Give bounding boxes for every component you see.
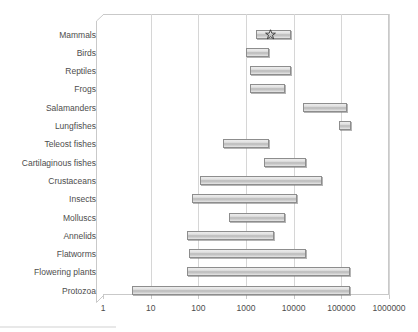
y-label-frogs: Frogs (4, 84, 96, 94)
tick-1000 (246, 295, 247, 299)
x-axis-tick-labels: 1101001000100001000001000000 (0, 303, 418, 319)
bar-salamanders (303, 103, 346, 112)
x-tick-label-10: 10 (146, 303, 155, 313)
x-tick-label-1000000: 1000000 (372, 303, 405, 313)
y-label-reptiles: Reptiles (4, 66, 96, 76)
y-axis-category-labels: MammalsBirdsReptilesFrogsSalamandersLung… (0, 0, 96, 332)
bar-flatworms (189, 249, 306, 258)
gridline-1000000 (389, 14, 390, 295)
bar-insects (192, 194, 298, 203)
x-tick-label-1000: 1000 (237, 303, 256, 313)
y-label-protozoa: Protozoa (4, 286, 96, 296)
x-tick-label-100: 100 (191, 303, 205, 313)
tick-100000 (341, 295, 342, 299)
bar-annelids (187, 231, 274, 240)
y-label-crustaceans: Crustaceans (4, 176, 96, 186)
bar-cartilaginous-fishes (264, 158, 306, 167)
y-label-molluscs: Molluscs (4, 213, 96, 223)
y-label-cartilaginous-fishes: Cartilaginous fishes (4, 158, 96, 168)
bar-crustaceans (200, 176, 322, 185)
footer-divider (0, 326, 116, 328)
x-tick-label-100000: 100000 (327, 303, 355, 313)
x-tick-label-10000: 10000 (282, 303, 306, 313)
gridline-10 (151, 14, 152, 295)
y-label-teleost-fishes: Teleost fishes (4, 139, 96, 149)
bar-birds (246, 48, 269, 57)
bar-mammals (256, 30, 292, 39)
tick-1 (103, 295, 104, 299)
y-label-flatworms: Flatworms (4, 249, 96, 259)
y-label-mammals: Mammals (4, 30, 96, 40)
bar-flowering-plants (187, 267, 350, 276)
y-label-lungfishes: Lungfishes (4, 121, 96, 131)
bar-frogs (250, 84, 285, 93)
y-label-insects: Insects (4, 194, 96, 204)
y-label-flowering-plants: Flowering plants (4, 267, 96, 277)
x-tick-label-1: 1 (101, 303, 106, 313)
genome-size-range-chart: MammalsBirdsReptilesFrogsSalamandersLung… (0, 0, 418, 332)
bar-reptiles (250, 66, 292, 75)
y-label-annelids: Annelids (4, 231, 96, 241)
tick-1000000 (389, 295, 390, 299)
bar-protozoa (132, 286, 350, 295)
tick-100 (198, 295, 199, 299)
gridline-100000 (341, 14, 342, 295)
tick-10000 (294, 295, 295, 299)
y-label-birds: Birds (4, 48, 96, 58)
y-label-salamanders: Salamanders (4, 103, 96, 113)
bar-lungfishes (339, 121, 351, 130)
bar-teleost-fishes (223, 139, 269, 148)
bar-molluscs (229, 213, 285, 222)
tick-10 (151, 295, 152, 299)
